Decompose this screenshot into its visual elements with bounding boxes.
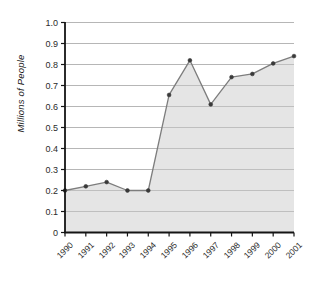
data-point[interactable]: 1999: 0.755 <box>250 72 254 76</box>
data-point[interactable]: 2001: 0.84 <box>292 54 296 58</box>
data-point[interactable]: 1996: 0.82 <box>188 58 192 62</box>
data-point[interactable]: 2000: 0.805 <box>271 62 275 66</box>
data-point[interactable]: 1994: 0.2 <box>146 189 150 193</box>
data-point[interactable]: 1998: 0.74 <box>230 75 234 79</box>
area-chart: Millions of People 1.00.90.80.70.60.50.4… <box>0 0 320 288</box>
data-point[interactable]: 1993: 0.2 <box>126 189 130 193</box>
data-point[interactable]: 1997: 0.61 <box>209 103 213 107</box>
data-point[interactable]: 1991: 0.22 <box>84 184 88 188</box>
data-point[interactable]: 1995: 0.655 <box>167 93 171 97</box>
data-point[interactable]: 1992: 0.24 <box>105 180 109 184</box>
plot-area: 1990: 0.21991: 0.221992: 0.241993: 0.219… <box>0 0 320 288</box>
